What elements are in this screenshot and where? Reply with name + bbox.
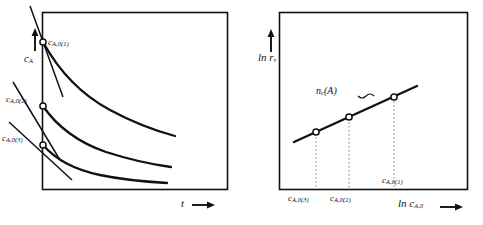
right-y-axis-label: ln rv: [258, 52, 277, 64]
right-y-axis-arrow: [268, 29, 275, 52]
figure-canvas: [0, 0, 483, 225]
left-x-axis-arrow: [192, 202, 215, 209]
start-point-label-2: cA,0(2): [6, 95, 27, 105]
figure-root: cA cA,0(1) cA,0(2) cA,0(3) t ln rv nc(A)…: [0, 0, 483, 225]
tangent-line-1: [30, 6, 63, 97]
decay-curve-2: [43, 106, 171, 167]
annotation-leader: [358, 94, 374, 98]
right-panel-group: [268, 13, 468, 211]
start-point-marker-2: [40, 103, 46, 109]
right-tick-label-1: cA,0(1): [382, 176, 403, 186]
right-tick-label-2: cA,0(2): [330, 194, 351, 204]
tangent-line-3: [9, 122, 72, 180]
left-y-axis-label: cA: [24, 53, 33, 65]
data-point-2: [346, 114, 352, 120]
data-point-1: [391, 94, 397, 100]
data-point-3: [313, 129, 319, 135]
decay-curve-1: [43, 42, 175, 136]
start-point-marker-1: [40, 39, 46, 45]
left-x-axis-label: t: [181, 198, 184, 209]
start-point-marker-3: [40, 142, 46, 148]
right-tick-label-3: cA,0(3): [288, 194, 309, 204]
left-y-axis-arrow: [32, 28, 39, 51]
right-x-axis-label: ln cA,0: [398, 198, 423, 210]
left-plot-frame: [43, 13, 228, 190]
reaction-order-annotation: nc(A): [316, 86, 337, 97]
right-x-axis-arrow: [440, 204, 463, 211]
fit-line: [294, 86, 417, 142]
left-panel-group: [9, 6, 228, 208]
right-plot-frame: [280, 13, 468, 190]
start-point-label-1: cA,0(1): [48, 38, 69, 48]
start-point-label-3: cA,0(3): [2, 134, 23, 144]
